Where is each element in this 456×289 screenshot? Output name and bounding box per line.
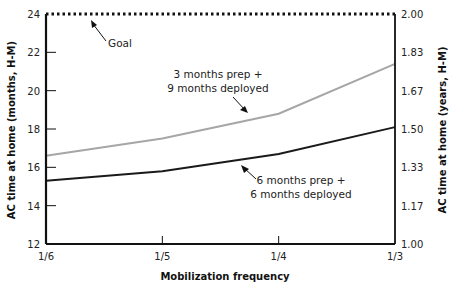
right-y-ticks: 1.001.171.331.501.671.832.00 [401,9,423,250]
series-1-label-line2: 6 months deployed [250,188,351,200]
arrow-head-icon [91,20,97,28]
x-tick-label: 1/5 [154,251,170,262]
y-tick-label: 24 [27,9,40,20]
goal-annotation: Goal [91,20,132,49]
goal-label: Goal [108,37,132,49]
series-0-label-line2: 9 months deployed [167,82,268,94]
y-tick-label: 14 [27,201,40,212]
y-tick-label: 12 [27,239,40,250]
right-y-tick-label: 2.00 [401,9,423,20]
goal-arrow-line [93,24,106,41]
series-1-label-line1: 6 months prep + [257,174,346,186]
x-tick-label: 1/6 [38,251,54,262]
x-axis-title: Mobilization frequency [160,271,290,282]
x-tick-label: 1/3 [387,251,403,262]
series-0-annotation: 3 months prep + 9 months deployed [167,68,268,113]
y-tick-label: 22 [27,47,40,58]
right-y-tick-label: 1.83 [401,47,423,58]
y-tick-label: 18 [27,124,40,135]
x-tick-label: 1/4 [271,251,287,262]
series-1-annotation: 6 months prep + 6 months deployed [241,165,352,200]
series-0-label-line1: 3 months prep + [174,68,263,80]
right-y-tick-label: 1.50 [401,124,423,135]
right-y-tick-label: 1.67 [401,86,423,97]
right-y-tick-label: 1.33 [401,162,423,173]
y-tick-label: 16 [27,162,40,173]
right-y-axis-title: AC time at home (years, H-M) [437,47,448,214]
x-ticks: 1/61/51/41/3 [38,236,403,262]
y-tick-label: 20 [27,86,40,97]
left-y-ticks: 12141618202224 [27,9,56,250]
line-chart: 12141618202224 1.001.171.331.501.671.832… [0,0,456,289]
right-y-tick-label: 1.00 [401,239,423,250]
plot-area [46,14,395,181]
arrow-head-icon [240,106,248,113]
right-y-tick-label: 1.17 [401,201,423,212]
series-1-line [46,127,395,181]
left-y-axis-title: AC time at home (months, H-M) [6,41,17,219]
